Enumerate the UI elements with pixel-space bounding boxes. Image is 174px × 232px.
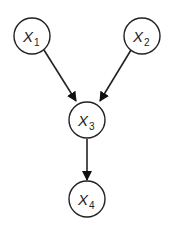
svg-text:X: X [77,191,89,208]
node-x1: X 1 [14,18,50,54]
svg-text:4: 4 [89,200,95,211]
node-x2: X 2 [124,18,160,54]
node-x3: X 3 [69,102,105,138]
svg-text:X: X [22,28,34,45]
svg-text:1: 1 [34,37,40,48]
node-x4: X 4 [69,181,105,217]
svg-text:3: 3 [89,121,95,132]
bayesian-network-diagram: X 1 X 2 X 3 X 4 [0,0,174,232]
svg-text:X: X [77,112,89,129]
svg-text:X: X [132,28,144,45]
edge-x1-x3 [44,50,76,101]
svg-text:2: 2 [144,37,150,48]
edge-x2-x3 [100,50,131,101]
